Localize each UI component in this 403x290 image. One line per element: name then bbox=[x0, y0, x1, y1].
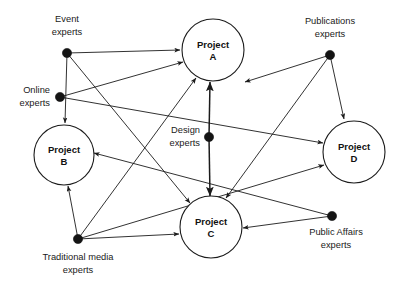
actor-label-traditional-line1: Traditional media bbox=[43, 252, 115, 262]
project-label-d: Project bbox=[338, 141, 371, 152]
edge-event-to-A bbox=[67, 50, 180, 53]
project-id-d: D bbox=[351, 153, 358, 164]
edge-design-to-C bbox=[209, 137, 210, 196]
diagram-canvas: ProjectAProjectBProjectCProjectDEventexp… bbox=[0, 0, 403, 290]
actor-node-event[interactable] bbox=[62, 48, 71, 57]
actor-node-public-affairs[interactable] bbox=[327, 211, 336, 220]
edge-traditional-to-B bbox=[68, 186, 78, 239]
project-id-b: B bbox=[61, 156, 68, 167]
actor-label-design-line1: Design bbox=[171, 125, 200, 135]
actor-label-event-line2: experts bbox=[52, 27, 83, 37]
actor-label-traditional-line2: experts bbox=[63, 265, 94, 275]
actor-node-traditional[interactable] bbox=[73, 234, 82, 243]
edge-design-to-A bbox=[209, 82, 210, 137]
actor-label-event-line1: Event bbox=[55, 14, 79, 24]
actor-node-publications[interactable] bbox=[325, 50, 334, 59]
edge-publications-to-C bbox=[226, 55, 330, 198]
actor-node-design[interactable] bbox=[204, 132, 213, 141]
edge-traditional-to-A bbox=[78, 78, 196, 239]
actor-label-public-affairs-line2: experts bbox=[321, 240, 352, 250]
actor-label-public-affairs-line1: Public Affairs bbox=[309, 227, 363, 237]
edge-publications-to-D bbox=[330, 55, 344, 119]
project-label-c: Project bbox=[195, 216, 228, 227]
project-id-c: C bbox=[208, 228, 215, 239]
actor-label-online-line1: Online bbox=[23, 85, 50, 95]
actor-label-online-line2: experts bbox=[20, 98, 51, 108]
project-label-b: Project bbox=[48, 144, 81, 155]
edge-online-to-D bbox=[60, 97, 323, 143]
actor-label-publications-line2: experts bbox=[315, 29, 346, 39]
edge-event-to-B bbox=[65, 53, 67, 123]
network-diagram: ProjectAProjectBProjectCProjectDEventexp… bbox=[0, 0, 403, 290]
project-label-a: Project bbox=[197, 39, 230, 50]
project-id-a: A bbox=[210, 51, 217, 62]
actor-label-publications-line1: Publications bbox=[305, 16, 355, 26]
edge-public_affairs-to-C bbox=[243, 216, 332, 228]
actor-node-online[interactable] bbox=[55, 92, 64, 101]
actor-label-design-line2: experts bbox=[170, 138, 201, 148]
edge-publications-to-A bbox=[245, 55, 330, 82]
